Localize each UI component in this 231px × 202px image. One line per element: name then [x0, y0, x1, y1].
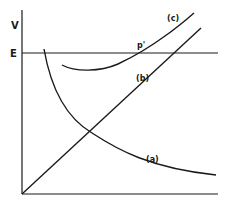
diagram-canvas: V E (c) p' (b) (a) — [0, 0, 231, 202]
y-axis-label: V — [11, 20, 19, 31]
point-p-prime-label: p' — [137, 41, 145, 50]
line-b-label: (b) — [136, 74, 149, 83]
curve-a-label: (a) — [146, 155, 159, 164]
diagram-svg: V E (c) p' (b) (a) — [0, 0, 231, 202]
curve-c-label: (c) — [167, 14, 179, 23]
energy-level-label: E — [10, 48, 17, 59]
